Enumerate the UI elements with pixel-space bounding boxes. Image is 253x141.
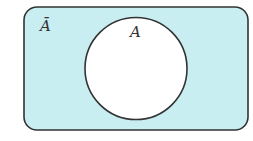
complement-label: Ā <box>38 17 51 35</box>
set-a-label: A <box>128 23 141 41</box>
venn-diagram: Ā A <box>0 0 253 141</box>
